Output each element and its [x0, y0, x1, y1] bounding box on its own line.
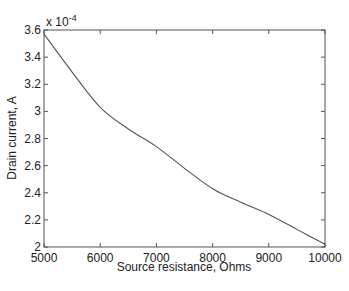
y-tick-label: 3.6 [24, 23, 41, 37]
y-tick-label: 2.6 [24, 159, 41, 173]
x-tick-label: 6000 [87, 251, 114, 265]
chart: 5000600070008000900010000 22.22.42.62.83… [0, 0, 349, 291]
y-multiplier: x 10-4 [46, 13, 77, 29]
y-tick-label: 2.2 [24, 213, 41, 227]
x-tick-label: 10000 [308, 251, 342, 265]
y-tick-label: 2 [34, 240, 41, 254]
y-tick-label: 2.4 [24, 186, 41, 200]
y-tick-label: 3.2 [24, 77, 41, 91]
x-axis-label: Source resistance, Ohms [117, 260, 252, 274]
y-tick-label: 3 [34, 104, 41, 118]
x-tick-label: 9000 [255, 251, 282, 265]
y-tick-label: 3.4 [24, 50, 41, 64]
y-axis-label: Drain current, A [5, 96, 19, 179]
y-tick-label: 2.8 [24, 132, 41, 146]
plot-area [44, 30, 325, 247]
